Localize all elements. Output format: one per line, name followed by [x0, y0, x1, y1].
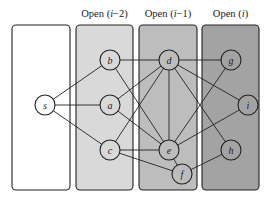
node-label-e: e [167, 145, 172, 156]
node-f: f [172, 164, 192, 184]
node-label-i: i [247, 100, 250, 111]
node-s: s [35, 95, 55, 115]
node-h: h [221, 140, 241, 160]
node-a: a [100, 95, 120, 115]
column-titles: Open (i−2)Open (i−1)Open (i) [81, 8, 248, 20]
column-title-col1: Open (i−2) [81, 8, 128, 20]
node-label-a: a [108, 100, 113, 111]
node-label-h: h [229, 145, 234, 156]
node-label-g: g [229, 55, 234, 66]
node-label-c: c [108, 145, 113, 156]
node-b: b [100, 50, 120, 70]
node-g: g [221, 50, 241, 70]
node-c: c [100, 140, 120, 160]
node-label-b: b [108, 55, 113, 66]
search-graph-diagram: Open (i−2)Open (i−1)Open (i) sbacdefgih [0, 0, 269, 203]
node-label-s: s [43, 100, 47, 111]
node-i: i [238, 95, 258, 115]
node-d: d [159, 50, 179, 70]
column-title-col3: Open (i) [213, 8, 249, 20]
node-e: e [159, 140, 179, 160]
column-title-col2: Open (i−1) [145, 8, 192, 20]
